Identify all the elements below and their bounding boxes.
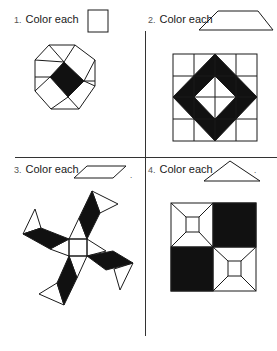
frame-squares-figure xyxy=(171,203,256,291)
problem-3-period: . xyxy=(130,171,132,180)
grid-diamond-figure xyxy=(173,54,257,141)
trapezoid-key-icon xyxy=(199,11,273,30)
triangle-key-icon xyxy=(204,161,260,181)
octagon-figure xyxy=(35,45,95,109)
problem-4-period: . xyxy=(254,166,256,175)
parallelogram-key-icon xyxy=(74,166,126,178)
pinwheel-figure xyxy=(23,191,133,305)
square-key-icon xyxy=(88,10,108,32)
worksheet-figures: . . xyxy=(0,0,277,351)
